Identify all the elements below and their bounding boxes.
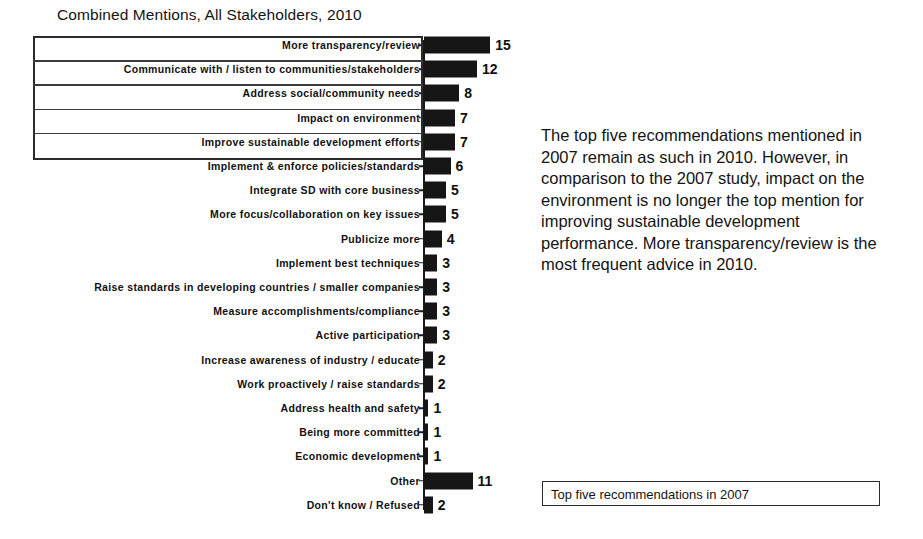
bar-row: Address health and safety1 bbox=[0, 396, 540, 420]
bar-row: Integrate SD with core business5 bbox=[0, 178, 540, 202]
top-five-divider bbox=[33, 84, 423, 86]
bar-row: Publicize more4 bbox=[0, 227, 540, 251]
bar-row: Measure accomplishments/compliance3 bbox=[0, 299, 540, 323]
bar bbox=[424, 496, 433, 513]
bar-row: Being more committed1 bbox=[0, 420, 540, 444]
bar-category-label: Active participation bbox=[316, 329, 420, 341]
bar-row: Implement best techniques3 bbox=[0, 251, 540, 275]
bar-category-label: Measure accomplishments/compliance bbox=[213, 305, 420, 317]
bar-chart: More transparency/review15Communicate wi… bbox=[0, 33, 540, 513]
bar-value-label: 3 bbox=[442, 255, 450, 271]
legend-box: Top five recommendations in 2007 bbox=[542, 481, 880, 506]
bar-row: Increase awareness of industry / educate… bbox=[0, 348, 540, 372]
bar-category-label: Improve sustainable development efforts bbox=[202, 136, 420, 148]
bar-row: Work proactively / raise standards2 bbox=[0, 372, 540, 396]
bar bbox=[424, 472, 473, 489]
bar bbox=[424, 158, 451, 175]
bar bbox=[424, 230, 442, 247]
bar-row: More transparency/review15 bbox=[0, 33, 540, 57]
bar-category-label: Implement & enforce policies/standards bbox=[208, 160, 420, 172]
bar-row: Raise standards in developing countries … bbox=[0, 275, 540, 299]
bar-category-label: Implement best techniques bbox=[276, 257, 420, 269]
bar-category-label: Raise standards in developing countries … bbox=[94, 281, 420, 293]
bar-value-label: 4 bbox=[447, 231, 455, 247]
bar bbox=[424, 133, 455, 150]
bar-value-label: 1 bbox=[433, 448, 441, 464]
bar-value-label: 1 bbox=[433, 400, 441, 416]
bar-value-label: 6 bbox=[456, 158, 464, 174]
bar-category-label: Communicate with / listen to communities… bbox=[124, 63, 420, 75]
top-five-divider bbox=[33, 133, 423, 135]
bar-value-label: 2 bbox=[438, 497, 446, 513]
bar-category-label: Address health and safety bbox=[281, 402, 420, 414]
bar-row: Implement & enforce policies/standards6 bbox=[0, 154, 540, 178]
top-five-divider bbox=[33, 109, 423, 111]
bar-category-label: Being more committed bbox=[299, 426, 420, 438]
bar-category-label: Increase awareness of industry / educate bbox=[201, 354, 420, 366]
bar bbox=[424, 424, 428, 441]
bar-value-label: 3 bbox=[442, 303, 450, 319]
bar-row: More focus/collaboration on key issues5 bbox=[0, 202, 540, 226]
bar-category-label: Work proactively / raise standards bbox=[237, 378, 420, 390]
bar bbox=[424, 254, 437, 271]
bar-value-label: 1 bbox=[433, 424, 441, 440]
bar-row: Active participation3 bbox=[0, 323, 540, 347]
bar-value-label: 5 bbox=[451, 182, 459, 198]
bar bbox=[424, 327, 437, 344]
legend-label: Top five recommendations in 2007 bbox=[551, 486, 749, 501]
bar-category-label: Don't know / Refused bbox=[307, 499, 420, 511]
bar-row: Don't know / Refused2 bbox=[0, 493, 540, 517]
bar bbox=[424, 375, 433, 392]
bar-category-label: Impact on environment bbox=[297, 112, 420, 124]
bar bbox=[424, 37, 490, 54]
bar-value-label: 2 bbox=[438, 376, 446, 392]
page-title: Combined Mentions, All Stakeholders, 201… bbox=[57, 6, 362, 24]
bar-category-label: Address social/community needs bbox=[243, 87, 420, 99]
bar-value-label: 11 bbox=[478, 473, 493, 489]
bar bbox=[424, 182, 446, 199]
bar-value-label: 8 bbox=[464, 85, 472, 101]
bar bbox=[424, 351, 433, 368]
bar-row: Economic development1 bbox=[0, 444, 540, 468]
bar bbox=[424, 206, 446, 223]
commentary-text: The top five recommendations mentioned i… bbox=[541, 125, 893, 276]
bar bbox=[424, 279, 437, 296]
bar-category-label: Publicize more bbox=[341, 233, 420, 245]
bar bbox=[424, 61, 477, 78]
bar bbox=[424, 109, 455, 126]
bar-category-label: More transparency/review bbox=[282, 39, 420, 51]
bar bbox=[424, 448, 428, 465]
bar-row: Other11 bbox=[0, 469, 540, 493]
bar-category-label: Economic development bbox=[295, 450, 420, 462]
bar-value-label: 7 bbox=[460, 134, 468, 150]
bar-category-label: Integrate SD with core business bbox=[250, 184, 420, 196]
bar-value-label: 15 bbox=[495, 37, 511, 53]
bar-value-label: 3 bbox=[442, 327, 450, 343]
bar-category-label: Other bbox=[390, 475, 420, 487]
bar-value-label: 2 bbox=[438, 352, 446, 368]
bar-value-label: 5 bbox=[451, 206, 459, 222]
top-five-divider bbox=[33, 60, 423, 62]
bar-category-label: More focus/collaboration on key issues bbox=[210, 208, 420, 220]
bar-value-label: 7 bbox=[460, 110, 468, 126]
bar bbox=[424, 303, 437, 320]
bar-value-label: 12 bbox=[482, 61, 498, 77]
bar bbox=[424, 400, 428, 417]
bar-value-label: 3 bbox=[442, 279, 450, 295]
bar bbox=[424, 85, 459, 102]
